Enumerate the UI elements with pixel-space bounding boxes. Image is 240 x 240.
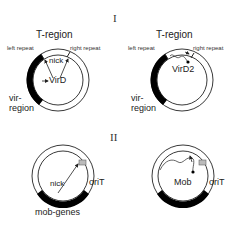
vir-region-label-1a: vir- [9,94,22,103]
vir-region-label-1b: region [9,104,34,113]
oriT-box [199,160,206,165]
t-region-title-1: T-region [36,30,73,40]
plasmid-mob-nick [32,145,94,208]
plasmid-virD2 [151,49,213,111]
left-repeat-label-2: left repeat [128,45,155,51]
right-repeat-label-2: right repeat [193,45,223,51]
virD2-label: VirD2 [172,65,194,74]
nick-label-2: nick [50,180,64,188]
t-region-title-2: T-region [156,30,193,40]
mob-label: Mob [174,178,192,187]
oriT-box [79,160,86,165]
oriT-label-1: oriT [89,178,105,187]
vir-region-label-2b: region [131,104,156,113]
right-repeat-label-1: right repeat [70,45,100,51]
nick-label-1: nick [49,57,63,65]
vir-region-label-2a: vir- [131,94,144,103]
oriT-label-2: oriT [209,178,225,187]
virD-label: VirD [49,76,66,85]
mob-genes-label: mob-genes [35,208,80,217]
left-repeat-label-1: left repeat [7,45,34,51]
